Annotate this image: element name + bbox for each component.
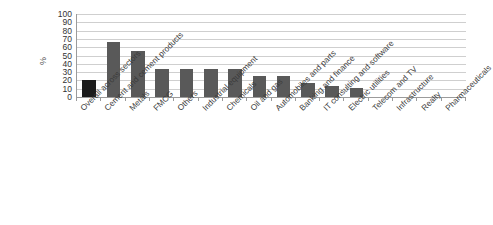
bar[interactable]	[253, 76, 267, 97]
bar-slot	[155, 14, 169, 97]
y-axis-tick-label: 70	[63, 35, 72, 44]
bar-slot	[277, 14, 291, 97]
y-axis-tick-label: 0	[67, 93, 72, 102]
y-axis-tick-label: 30	[63, 68, 72, 77]
x-axis-tick	[416, 97, 417, 101]
bar[interactable]	[350, 88, 364, 97]
bar[interactable]	[277, 76, 291, 97]
plot-area	[76, 14, 466, 98]
bar[interactable]	[204, 69, 218, 97]
bar[interactable]	[180, 69, 194, 97]
bar[interactable]	[107, 42, 121, 97]
bar-slot	[350, 14, 364, 97]
x-axis-tick	[100, 97, 101, 101]
y-axis-tick-label: 20	[63, 76, 72, 85]
y-axis-tick-label: 80	[63, 26, 72, 35]
x-axis-tick	[295, 97, 296, 101]
x-axis-tick	[246, 97, 247, 101]
bar-slot	[398, 14, 412, 97]
x-axis-tick	[125, 97, 126, 101]
bar-slot	[107, 14, 121, 97]
bar[interactable]	[131, 51, 145, 97]
bar-slot	[253, 14, 267, 97]
y-axis-tick-label: 40	[63, 60, 72, 69]
x-axis-tick	[76, 97, 77, 101]
x-axis-tick	[222, 97, 223, 101]
bar-slot	[180, 14, 194, 97]
y-axis-tick-labels: 0102030405060708090100	[48, 11, 74, 97]
bar-slot	[447, 14, 461, 97]
x-axis-tick	[368, 97, 369, 101]
x-axis-tick	[271, 97, 272, 101]
bar-slot	[228, 14, 242, 97]
x-axis-tick	[343, 97, 344, 101]
bar-slot	[423, 14, 437, 97]
bar-slot	[131, 14, 145, 97]
bar-slot	[325, 14, 339, 97]
x-axis-tick	[149, 97, 150, 101]
y-axis-tick-label: 60	[63, 43, 72, 52]
x-axis-tick	[392, 97, 393, 101]
y-axis-tick-label: 10	[63, 84, 72, 93]
y-axis-tick-label: 100	[58, 10, 72, 19]
x-axis-ticks	[76, 97, 466, 101]
y-axis-tick-label: 90	[63, 18, 72, 27]
bar-slot	[301, 14, 315, 97]
bar[interactable]	[301, 83, 315, 97]
x-axis-tick	[198, 97, 199, 101]
x-axis-tick	[465, 97, 466, 101]
y-axis-tick-label: 50	[63, 51, 72, 60]
x-axis-tick	[319, 97, 320, 101]
bar[interactable]	[228, 69, 242, 97]
x-axis-tick	[441, 97, 442, 101]
bar[interactable]	[82, 80, 96, 97]
x-axis-tick	[173, 97, 174, 101]
bars-layer	[77, 14, 466, 97]
bar-slot	[374, 14, 388, 97]
bar-slot	[204, 14, 218, 97]
bar[interactable]	[155, 69, 169, 97]
bar[interactable]	[325, 86, 339, 97]
bar-slot	[82, 14, 96, 97]
